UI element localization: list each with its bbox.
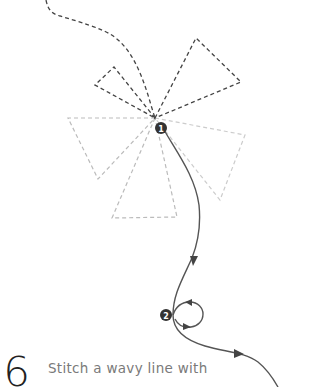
marker-2-label: 2	[163, 312, 169, 321]
arrow-icon	[183, 323, 191, 330]
petal-large-dark	[155, 38, 241, 118]
petal-left-light	[68, 118, 155, 179]
step-number: 6	[3, 352, 30, 387]
marker-2: 2	[160, 309, 172, 321]
stitch-loop	[173, 302, 203, 327]
marker-1: 1	[155, 122, 167, 134]
stem-dashed	[46, 0, 155, 118]
arrow-icon	[234, 349, 244, 358]
stitch-diagram: 1 2	[0, 0, 310, 387]
marker-1-label: 1	[158, 125, 164, 134]
stitch-path	[163, 128, 278, 387]
step-instruction: Stitch a wavy line with	[48, 360, 208, 376]
petal-small-dark	[95, 67, 155, 118]
arrow-icon	[185, 299, 192, 306]
petal-right-light	[155, 118, 245, 200]
